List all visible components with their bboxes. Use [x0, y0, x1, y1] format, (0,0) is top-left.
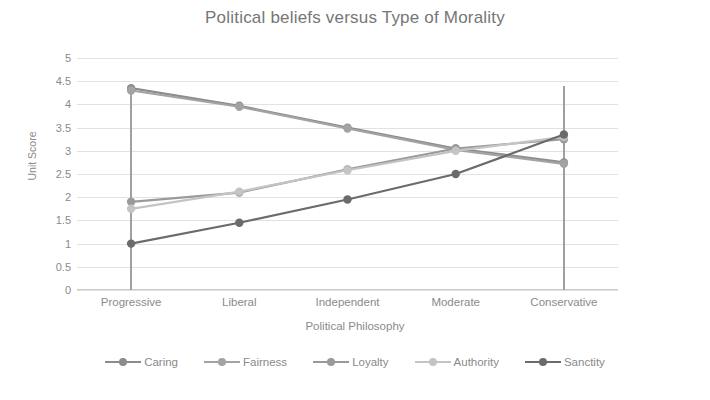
data-point [127, 239, 135, 247]
y-tick-label: 4.5 [31, 75, 71, 87]
legend-label: Loyalty [352, 356, 388, 368]
data-point [127, 86, 135, 94]
legend-label: Sanctity [564, 356, 605, 368]
data-point [343, 195, 351, 203]
legend-swatch-icon [313, 357, 349, 367]
legend-item-caring[interactable]: Caring [105, 356, 178, 368]
x-tick-label-conservative: Conservative [494, 296, 634, 308]
series-sanctity [127, 130, 568, 247]
y-tick-label: 3 [31, 145, 71, 157]
legend-item-fairness[interactable]: Fairness [204, 356, 287, 368]
series-line [131, 135, 564, 244]
y-tick-label: 0 [31, 284, 71, 296]
chart-legend: CaringFairnessLoyaltyAuthoritySanctity [0, 356, 710, 368]
y-tick-label: 4 [31, 98, 71, 110]
y-tick-label: 2.5 [31, 168, 71, 180]
data-point [127, 205, 135, 213]
y-tick-label: 1.5 [31, 214, 71, 226]
chart-container: Political beliefs versus Type of Moralit… [0, 0, 710, 400]
data-point [343, 124, 351, 132]
legend-swatch-icon [525, 357, 561, 367]
y-tick-label: 5 [31, 52, 71, 64]
legend-swatch-icon [105, 357, 141, 367]
data-point [343, 166, 351, 174]
y-axis-tick-labels: 54.543.532.521.510.50 [29, 58, 71, 290]
legend-label: Fairness [243, 356, 287, 368]
data-point [235, 219, 243, 227]
data-point [452, 147, 460, 155]
legend-label: Caring [144, 356, 178, 368]
legend-item-loyalty[interactable]: Loyalty [313, 356, 388, 368]
plot-area [77, 58, 618, 290]
legend-item-authority[interactable]: Authority [415, 356, 499, 368]
x-axis-title: Political Philosophy [0, 320, 710, 332]
gridline [77, 290, 618, 291]
data-point [560, 160, 568, 168]
legend-swatch-icon [204, 357, 240, 367]
legend-item-sanctity[interactable]: Sanctity [525, 356, 605, 368]
legend-swatch-icon [415, 357, 451, 367]
y-tick-label: 1 [31, 238, 71, 250]
legend-label: Authority [454, 356, 499, 368]
y-tick-label: 3.5 [31, 122, 71, 134]
data-point [452, 170, 460, 178]
y-tick-label: 0.5 [31, 261, 71, 273]
chart-title: Political beliefs versus Type of Moralit… [0, 8, 710, 28]
y-tick-label: 2 [31, 191, 71, 203]
data-point [235, 187, 243, 195]
data-point [235, 103, 243, 111]
data-point [560, 130, 568, 138]
series-lines [77, 58, 618, 290]
